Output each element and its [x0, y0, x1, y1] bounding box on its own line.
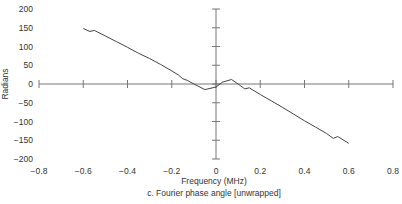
x-tick-label: 0.2 — [254, 166, 266, 176]
y-tick-label: −200 — [14, 154, 33, 164]
y-tick-labels: 200150100500−50−100−150−200 — [14, 4, 33, 164]
x-tick-label: 0 — [214, 166, 219, 176]
y-tick-label: 100 — [19, 42, 33, 52]
x-tick-labels: −0.8−0.6−0.4−0.200.20.40.60.8 — [31, 166, 400, 176]
x-tick-label: −0.4 — [119, 166, 136, 176]
x-tick-label: 0.8 — [387, 166, 399, 176]
y-tick-label: 50 — [24, 60, 34, 70]
x-tick-label: −0.8 — [31, 166, 48, 176]
y-axis-title: Radians — [0, 68, 10, 99]
x-tick-label: −0.2 — [163, 166, 180, 176]
x-tick-label: −0.6 — [75, 166, 92, 176]
chart-caption: c. Fourier phase angle [unwrapped] — [147, 188, 281, 198]
phase-angle-chart: −0.8−0.6−0.4−0.200.20.40.60.8 2001501005… — [0, 0, 402, 204]
y-tick-label: −50 — [19, 98, 34, 108]
x-tick-label: 0.6 — [343, 166, 355, 176]
x-tick-label: 0.4 — [299, 166, 311, 176]
x-axis-title: Frequency (MHz) — [181, 176, 247, 186]
y-tick-label: 0 — [28, 79, 33, 89]
y-tick-label: −150 — [14, 135, 33, 145]
y-tick-label: 200 — [19, 4, 33, 14]
y-tick-label: 150 — [19, 23, 33, 33]
y-tick-label: −100 — [14, 117, 33, 127]
